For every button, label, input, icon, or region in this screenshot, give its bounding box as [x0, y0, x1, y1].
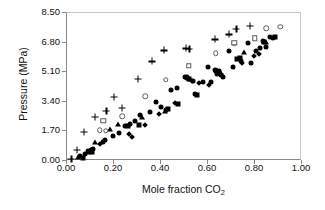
data-point-filled-diamond — [142, 122, 148, 128]
y-tick-mark — [62, 42, 66, 43]
data-point-filled-circle — [117, 130, 122, 135]
data-point-open-circle — [97, 127, 103, 133]
x-tick-label: 0.20 — [93, 163, 133, 173]
data-point-filled-circle — [103, 138, 108, 143]
data-point-filled-square — [272, 35, 277, 40]
data-point-filled-triangle — [115, 121, 121, 126]
y-tick-mark — [62, 101, 66, 102]
data-point-open-circle — [163, 77, 169, 83]
data-point-plus — [246, 22, 253, 29]
plot-area — [66, 12, 301, 160]
data-point-filled-triangle — [263, 40, 269, 45]
data-point-filled-square — [81, 155, 86, 160]
data-point-plus — [91, 113, 98, 120]
data-point-filled-circle — [248, 60, 253, 65]
y-tick-mark — [62, 130, 66, 131]
data-point-open-square — [252, 36, 258, 42]
data-point-filled-circle — [169, 88, 174, 93]
data-point-filled-circle — [206, 64, 211, 69]
data-point-filled-square — [125, 123, 130, 128]
data-point-filled-circle — [264, 44, 269, 49]
data-point-open-circle — [264, 26, 270, 32]
data-point-plus — [186, 45, 193, 52]
data-point-filled-circle — [258, 45, 263, 50]
data-point-plus — [118, 104, 125, 111]
data-point-plus — [103, 107, 110, 114]
data-point-filled-circle — [174, 85, 179, 90]
x-axis-title-subscript: 2 — [221, 188, 225, 197]
data-point-filled-diamond — [156, 111, 162, 117]
x-tick-label: 0.60 — [187, 163, 227, 173]
data-point-filled-circle — [153, 100, 158, 105]
data-point-filled-triangle — [139, 114, 145, 119]
data-point-plus — [134, 75, 141, 82]
data-point-open-circle — [142, 93, 148, 99]
y-tick-mark — [62, 71, 66, 72]
data-point-filled-square — [195, 93, 200, 98]
data-point-filled-diamond — [256, 52, 262, 58]
data-point-open-circle — [103, 128, 109, 134]
data-point-filled-triangle — [162, 108, 168, 113]
x-axis-title: Mole fraction CO2 — [66, 183, 301, 195]
data-point-filled-triangle — [241, 50, 247, 55]
data-point-filled-circle — [148, 110, 153, 115]
data-point-plus — [148, 58, 155, 65]
data-point-filled-diamond — [239, 60, 245, 66]
data-point-filled-circle — [111, 134, 116, 139]
data-point-plus — [80, 128, 87, 135]
x-axis-title-text: Mole fraction CO — [142, 183, 221, 195]
data-point-open-circle — [119, 113, 125, 119]
data-point-filled-diamond — [129, 134, 135, 140]
chart-figure: 0.001.703.405.106.808.50 0.000.200.400.6… — [0, 0, 325, 210]
x-tick-label: 1.00 — [281, 163, 321, 173]
x-tick-label: 0.40 — [140, 163, 180, 173]
data-point-open-circle — [213, 50, 219, 56]
data-points-layer — [67, 13, 300, 159]
data-point-plus — [110, 93, 117, 100]
y-axis-title: Pressure (MPa) — [17, 14, 29, 154]
data-point-open-circle — [278, 24, 284, 30]
data-point-open-square — [101, 118, 107, 124]
data-point-filled-triangle — [75, 155, 81, 160]
data-point-plus — [212, 36, 219, 43]
x-tick-label: 0.80 — [234, 163, 274, 173]
x-tick-label: 0.00 — [46, 163, 86, 173]
data-point-plus — [73, 146, 80, 153]
data-point-filled-circle — [231, 65, 236, 70]
data-point-filled-circle — [226, 48, 231, 53]
data-point-filled-circle — [245, 40, 250, 45]
data-point-plus — [233, 26, 240, 33]
data-point-plus — [225, 31, 232, 38]
y-tick-mark — [62, 12, 66, 13]
data-point-open-square — [186, 63, 192, 69]
data-point-open-square — [232, 40, 238, 46]
data-point-plus — [160, 47, 167, 54]
